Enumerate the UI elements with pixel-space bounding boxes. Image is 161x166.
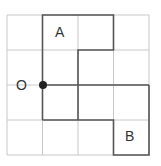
label-b: B xyxy=(125,128,134,144)
label-o: O xyxy=(16,77,27,93)
grid-diagram: A O B xyxy=(0,0,161,166)
point-o-dot xyxy=(39,81,47,89)
label-a: A xyxy=(55,24,65,40)
